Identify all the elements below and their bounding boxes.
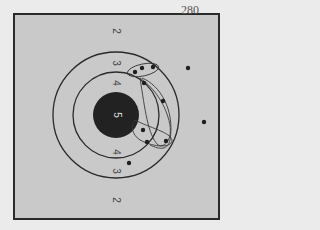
ring-label-4-top: 4	[111, 78, 121, 88]
ring-label-4-bottom: 4	[111, 147, 121, 157]
shot-count-label: 280	[181, 3, 199, 18]
ring-label-2-bottom: 2	[111, 195, 121, 205]
ring-label-3-bottom: 3	[111, 166, 121, 176]
ring-label-3-top: 3	[111, 58, 121, 68]
ring-label-5-bull: 5	[112, 110, 122, 120]
ring-label-2-top: 2	[111, 26, 121, 36]
